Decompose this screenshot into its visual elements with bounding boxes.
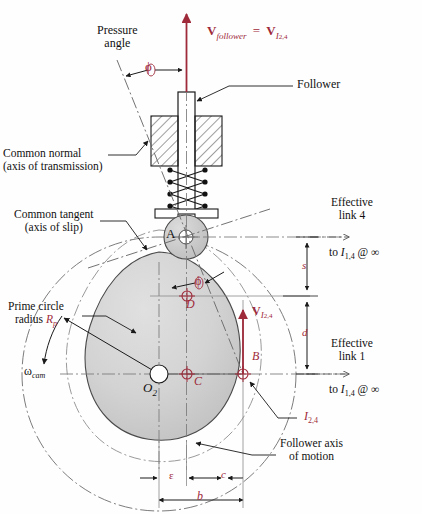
I14-top-subscript: 1,4	[345, 252, 355, 261]
common-normal-label: Common normal (axis of transmission)	[3, 147, 103, 173]
velocity-I-subscript-nums: 2,4	[279, 33, 288, 41]
pressure-angle-label: Pressure angle	[97, 24, 138, 51]
I24-subscript: 2,4	[308, 416, 318, 425]
effective-link-1-label: Effective link 1	[331, 337, 373, 363]
prime-circle-R-symbol: R	[46, 313, 53, 325]
dimension-c-label: c	[221, 468, 226, 480]
dimension-s-label: s	[302, 259, 306, 271]
common-tangent-label: Common tangent (axis of slip)	[14, 208, 94, 234]
follower-axis-of-motion-label: Follower axis of motion	[280, 437, 343, 463]
to-I14-infinity-bottom: to I1,4 @ ∞	[329, 383, 379, 399]
prime-circle-label: Prime circle radius Rp	[8, 300, 64, 329]
velocity-follower-label: Vfollower = VI2,4	[207, 24, 287, 41]
phi-symbol-cam: ϕ	[195, 275, 201, 288]
instant-center-I24-label: I2,4	[304, 410, 318, 426]
omega-cam-subscript: cam	[32, 371, 45, 380]
to-I14-infinity-top: to I1,4 @ ∞	[329, 246, 379, 262]
dimension-b-label: b	[197, 490, 203, 503]
point-C-label: C	[194, 375, 202, 388]
velocity-I24-V-bold: V	[252, 304, 261, 318]
I14-bottom-subscript: 1,4	[345, 389, 355, 398]
velocity-I24-sub-nums: 2,4	[264, 312, 273, 320]
dimension-d-label: d	[302, 326, 308, 338]
phi-symbol-top: ϕ	[145, 60, 152, 75]
velocity-V-bold: V	[207, 23, 216, 38]
omega-cam-label: ωcam	[24, 365, 45, 381]
point-O2-subscript: 2	[152, 388, 157, 398]
prime-circle-R-subscript: p	[53, 319, 57, 328]
effective-link-4-label: Effective link 4	[331, 196, 373, 222]
velocity-I-V-bold: V	[266, 23, 275, 38]
point-A-label: A	[166, 227, 175, 242]
dimension-s	[283, 237, 318, 296]
dimension-epsilon-label: ε	[169, 469, 174, 481]
velocity-I24-at-B-label: VI2,4	[252, 305, 272, 321]
point-B-label: B	[252, 350, 259, 363]
point-O2-label: O2	[143, 381, 157, 398]
cam-body	[85, 252, 240, 440]
cam-mechanism-diagram: Pressure angle ϕ ϕ Vfollower = VI2,4 Fol…	[0, 0, 422, 514]
velocity-follower-subscript: follower	[216, 31, 246, 41]
follower-label: Follower	[297, 78, 340, 91]
velocity-equals-sign: =	[250, 23, 263, 38]
point-D-label: D	[186, 298, 195, 311]
